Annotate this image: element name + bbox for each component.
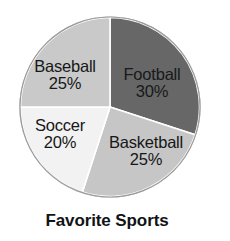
pie-label-soccer-percent: 20% <box>24 134 96 151</box>
pie-label-baseball-name: Baseball <box>25 58 105 75</box>
pie-label-football-name: Football <box>114 66 190 83</box>
pie-label-basketball: Basketball 25% <box>98 134 194 168</box>
pie-label-soccer: Soccer 20% <box>24 117 96 151</box>
pie-chart-figure: Football 30% Baseball 25% Soccer 20% Bas… <box>0 0 214 241</box>
pie-label-basketball-name: Basketball <box>98 134 194 151</box>
pie-label-football: Football 30% <box>114 66 190 100</box>
chart-title: Favorite Sports <box>0 211 214 231</box>
pie-label-basketball-percent: 25% <box>98 151 194 168</box>
pie-label-football-percent: 30% <box>114 83 190 100</box>
pie-label-soccer-name: Soccer <box>24 117 96 134</box>
pie-label-baseball-percent: 25% <box>25 75 105 92</box>
pie-label-baseball: Baseball 25% <box>25 58 105 92</box>
pie-chart-graphic <box>19 16 201 198</box>
pie-svg <box>19 16 201 198</box>
